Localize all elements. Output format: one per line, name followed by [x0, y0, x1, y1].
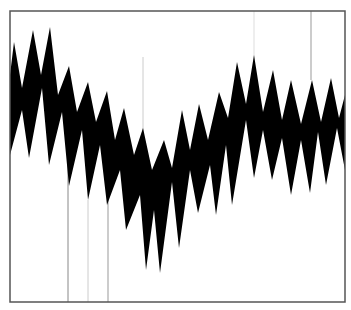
chart-canvas — [0, 0, 351, 310]
oscillating-band-area — [10, 27, 345, 273]
